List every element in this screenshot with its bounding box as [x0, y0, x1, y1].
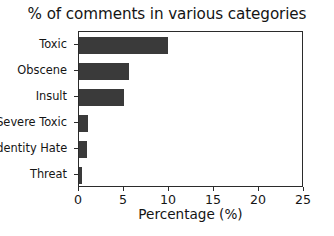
bar-toxic — [79, 37, 168, 54]
x-tick-label-10: 10 — [160, 192, 176, 207]
x-tick-label-15: 15 — [205, 192, 221, 207]
bar-band — [79, 110, 302, 136]
y-tick-label-identity-hate: Identity Hate — [0, 142, 67, 155]
bar-band — [79, 136, 302, 162]
y-axis-tick-labels: ToxicObsceneInsultSevere ToxicIdentity H… — [0, 31, 74, 187]
x-tick-label-5: 5 — [119, 192, 127, 207]
x-tick-label-20: 20 — [250, 192, 266, 207]
bar-band — [79, 84, 302, 110]
x-tick-label-0: 0 — [74, 192, 82, 207]
bar-insult — [79, 89, 124, 106]
x-tick-mark — [123, 187, 124, 191]
bar-series — [79, 32, 302, 186]
x-tick-mark — [213, 187, 214, 191]
x-tick-mark — [303, 187, 304, 191]
bar-threat — [79, 167, 82, 184]
x-tick-mark — [168, 187, 169, 191]
y-tick-label-threat: Threat — [0, 168, 67, 181]
y-tick-label-insult: Insult — [0, 90, 67, 103]
bar-band — [79, 162, 302, 188]
bar-identity-hate — [79, 141, 87, 158]
plot-area — [78, 31, 303, 187]
x-tick-mark — [78, 187, 79, 191]
bar-obscene — [79, 63, 129, 80]
y-tick-label-obscene: Obscene — [0, 64, 67, 77]
x-axis-label: Percentage (%) — [78, 206, 303, 223]
x-tick-mark — [258, 187, 259, 191]
y-tick-label-toxic: Toxic — [0, 38, 67, 51]
bar-band — [79, 32, 302, 58]
y-tick-label-severe-toxic: Severe Toxic — [0, 116, 67, 129]
bar-chart-figure: % of comments in various categories Toxi… — [0, 0, 334, 236]
bar-band — [79, 58, 302, 84]
x-tick-label-25: 25 — [295, 192, 311, 207]
chart-title: % of comments in various categories — [0, 5, 334, 24]
bar-severe-toxic — [79, 115, 88, 132]
